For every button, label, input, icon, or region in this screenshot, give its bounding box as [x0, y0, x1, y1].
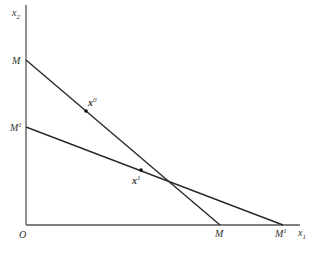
x-intercept-m1-label: M1 — [274, 227, 287, 239]
y-intercept-m1-label: M1 — [9, 121, 22, 133]
budget-line-m — [26, 60, 220, 225]
point-x0 — [84, 109, 88, 113]
point-x1-label: x1 — [131, 174, 141, 186]
point-x0-label: x0 — [87, 96, 97, 108]
origin-label: O — [19, 229, 26, 240]
point-x1 — [139, 168, 143, 172]
y-axis-label: x2 — [11, 7, 20, 21]
y-intercept-m-label: M — [11, 55, 21, 66]
x-intercept-m-label: M — [214, 228, 224, 239]
budget-line-diagram: x2 x1 O M M1 M M1 x0 x1 — [0, 0, 326, 253]
budget-line-m1 — [26, 127, 283, 225]
x-axis-label: x1 — [297, 227, 306, 241]
